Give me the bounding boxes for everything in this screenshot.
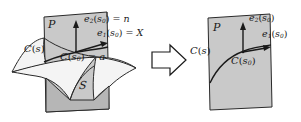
right-normal-vector-label: e2(s0) xyxy=(249,13,274,24)
right-normal-paren-close: ) xyxy=(271,12,275,23)
left-point-equals: = xyxy=(85,51,100,62)
left-curve-paren-close: ) xyxy=(41,43,45,54)
right-point-label: C(s0) xyxy=(231,56,256,67)
right-tangent-vector-label: e1(s0) xyxy=(262,29,287,40)
right-point-C: C xyxy=(231,55,239,66)
right-tangent-paren-close: ) xyxy=(284,28,288,39)
right-curve-label: C(s) xyxy=(190,46,211,56)
left-curve-label: C(s) xyxy=(24,44,45,54)
left-curve-C: C xyxy=(24,43,32,54)
left-normal-equals: = xyxy=(109,13,123,24)
right-curve-paren-close: ) xyxy=(207,45,211,56)
surface-S-label: S xyxy=(78,80,87,91)
left-tangent-value: X xyxy=(136,27,143,38)
left-point-C: C xyxy=(60,51,68,62)
right-plane-label: P xyxy=(213,22,220,33)
left-normal-value: n xyxy=(123,13,129,24)
right-base-point xyxy=(242,51,245,54)
surface-S-right-wing xyxy=(93,57,136,100)
left-point-value: a xyxy=(99,51,105,62)
left-normal-vector-label: e2(s0) = n xyxy=(84,14,130,25)
left-tangent-equals: = xyxy=(122,27,136,38)
left-tangent-vector-label: e1(s0) = X xyxy=(97,28,143,39)
left-plane-label: P xyxy=(48,19,55,30)
transform-arrow-icon xyxy=(152,45,186,75)
right-point-paren-close: ) xyxy=(252,55,256,66)
left-point-label: C(s0) = a xyxy=(60,52,105,63)
geometry-figure: P e2(s0) = n e1(s0) = X C(s) C(s0) = a S… xyxy=(0,0,301,122)
right-curve-C: C xyxy=(190,45,198,56)
